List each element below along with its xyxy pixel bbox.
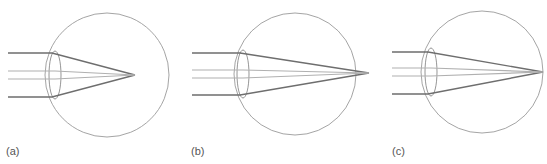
eye-diagram-figure: (a) (b) (c) bbox=[0, 0, 547, 164]
eye-panel-b bbox=[192, 13, 369, 135]
inner-light-ray-upper bbox=[192, 70, 369, 73]
eye-panel-a bbox=[8, 13, 169, 137]
eye-panel-c bbox=[392, 11, 543, 133]
panel-label-c: (c) bbox=[392, 146, 405, 157]
outer-light-ray-bottom bbox=[392, 72, 543, 94]
eyeball-outline bbox=[45, 13, 169, 137]
eye-diagram-svg bbox=[0, 0, 547, 164]
panel-label-b: (b) bbox=[191, 146, 204, 157]
lens-outline bbox=[425, 48, 437, 96]
eyeball-outline bbox=[421, 11, 543, 133]
inner-light-ray-upper bbox=[8, 71, 135, 75]
inner-light-ray-lower bbox=[8, 75, 135, 79]
inner-light-ray-lower bbox=[392, 72, 543, 76]
panel-label-a: (a) bbox=[6, 146, 19, 157]
lens-outline bbox=[49, 51, 61, 99]
lens-outline bbox=[237, 50, 249, 98]
